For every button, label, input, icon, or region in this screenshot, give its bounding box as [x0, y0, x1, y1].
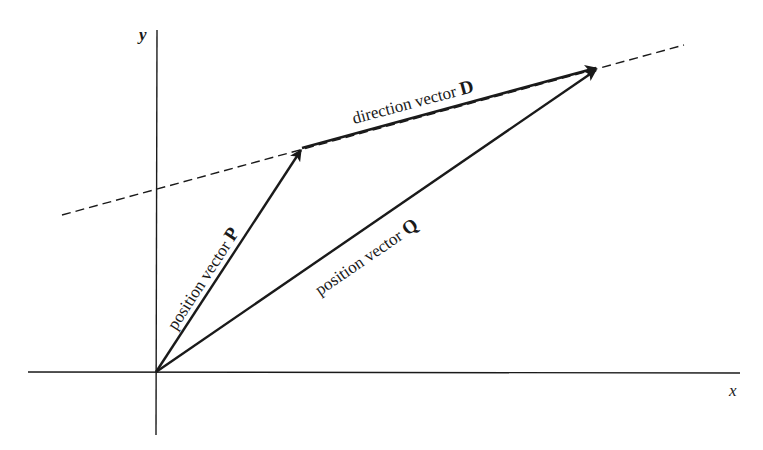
direction-vector-d-arrow	[302, 68, 596, 148]
y-axis-label: y	[137, 25, 147, 44]
x-axis-label: x	[728, 381, 737, 400]
position-vector-p-label: position vector P	[162, 223, 244, 333]
x-axis	[28, 372, 740, 373]
y-axis	[156, 30, 157, 435]
direction-vector-d-label: direction vector D	[350, 75, 476, 128]
vector-diagram: x y position vector P position vector Q …	[0, 0, 763, 450]
